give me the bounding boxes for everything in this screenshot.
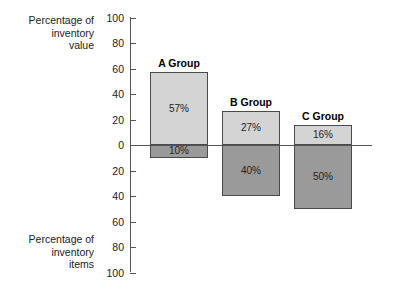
tick-label-text: 40	[96, 89, 124, 99]
y-axis-tick	[130, 94, 136, 95]
zero-baseline	[130, 145, 372, 146]
tick-label-text: 100	[96, 268, 124, 278]
y-axis-tick-label: 40	[96, 191, 124, 201]
caption-line: inventory	[2, 27, 94, 40]
y-axis-tick	[130, 196, 136, 197]
y-axis-tick-label: 100	[96, 268, 124, 278]
y-axis-tick-label: 0	[96, 140, 124, 150]
y-axis-tick-label: 80	[96, 38, 124, 48]
y-axis-upper-caption: Percentage of inventory value	[2, 14, 94, 52]
tick-label-text: 100	[96, 13, 124, 23]
bar-value-label: 50%	[313, 172, 333, 182]
bar-segment-items[interactable]: 50%	[294, 145, 352, 209]
bar-category-label: C Group	[294, 111, 352, 122]
y-axis-tick	[130, 273, 136, 274]
caption-line: items	[2, 258, 94, 271]
y-axis-tick-label: 80	[96, 242, 124, 252]
caption-line: Percentage of	[2, 14, 94, 27]
y-axis-tick-label: 60	[96, 217, 124, 227]
bar-value-label: 10%	[169, 146, 189, 156]
bar-value-label: 57%	[169, 104, 189, 114]
y-axis-tick	[130, 69, 136, 70]
tick-label-text: 20	[96, 166, 124, 176]
y-axis-tick-label: 60	[96, 64, 124, 74]
tick-label-text: 20	[96, 115, 124, 125]
caption-line: value	[2, 39, 94, 52]
abc-inventory-chart: Percentage of inventory value Percentage…	[0, 0, 401, 287]
bar-category-label: B Group	[222, 97, 280, 108]
tick-label-text: 80	[96, 242, 124, 252]
tick-label-text: 60	[96, 64, 124, 74]
bar-value-label: 16%	[313, 130, 333, 140]
bar-segment-value[interactable]: 27%	[222, 111, 280, 145]
caption-line: Percentage of	[2, 233, 94, 246]
y-axis-tick	[130, 171, 136, 172]
bar-segment-value[interactable]: 57%	[150, 72, 208, 145]
tick-label-text: 0	[96, 140, 124, 150]
tick-label-text: 60	[96, 217, 124, 227]
bar-group-c-group[interactable]: C Group16%50%	[294, 0, 352, 287]
bar-value-label: 27%	[241, 123, 261, 133]
y-axis-tick-label: 20	[96, 115, 124, 125]
y-axis-tick-label: 20	[96, 166, 124, 176]
bar-category-label: A Group	[150, 58, 208, 69]
tick-label-text: 80	[96, 38, 124, 48]
y-axis-tick-label: 100	[96, 13, 124, 23]
bar-segment-items[interactable]: 10%	[150, 145, 208, 158]
y-axis-tick	[130, 43, 136, 44]
y-axis-tick	[130, 18, 136, 19]
y-axis-tick-label: 40	[96, 89, 124, 99]
y-axis-tick	[130, 247, 136, 248]
bar-segment-items[interactable]: 40%	[222, 145, 280, 196]
bar-group-b-group[interactable]: B Group27%40%	[222, 0, 280, 287]
tick-label-text: 40	[96, 191, 124, 201]
y-axis-tick	[130, 120, 136, 121]
bar-segment-value[interactable]: 16%	[294, 125, 352, 145]
y-axis-tick	[130, 222, 136, 223]
bar-value-label: 40%	[241, 166, 261, 176]
caption-line: inventory	[2, 246, 94, 259]
bar-group-a-group[interactable]: A Group57%10%	[150, 0, 208, 287]
y-axis-lower-caption: Percentage of inventory items	[2, 233, 94, 271]
